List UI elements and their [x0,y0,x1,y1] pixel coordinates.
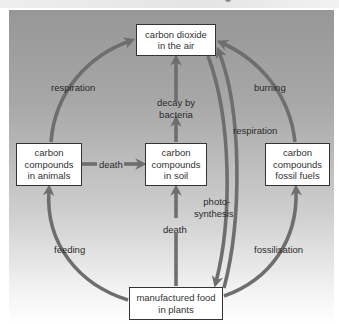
node-soil-line2: compounds [151,159,200,171]
label-photo-line1: photo- [194,196,234,208]
label-burning: burning [254,82,286,94]
label-decay-by-bacteria: decay by bacteria [152,97,200,120]
node-soil-line1: carbon [161,147,190,159]
node-carbon-in-soil: carbon compounds in soil [145,143,207,186]
node-co2-in-air: carbon dioxide in the air [136,24,216,56]
node-carbon-in-animals: carbon compounds in animals [16,143,82,186]
label-feeding: feeding [54,244,85,256]
label-respiration-plants: respiration [233,125,277,137]
arrow-photosynthesis [208,56,227,282]
node-fossil-line1: carbon [283,147,312,159]
node-carbon-fossil-fuels: carbon compounds fossil fuels [265,143,330,186]
label-photosynthesis: photo- synthesis [194,196,234,219]
label-decay-line2: bacteria [152,109,200,121]
node-food-in-plants: manufactured food in plants [129,287,223,320]
label-death-plants: death [163,224,187,236]
node-animals-line1: carbon [34,147,63,159]
label-respiration-animals: respiration [51,82,95,94]
node-co2-line1: carbon dioxide [145,29,207,41]
node-co2-line2: in the air [158,40,194,52]
node-fossil-line3: fossil fuels [275,170,319,182]
label-fossilisation: fossilisation [254,244,303,256]
node-animals-line3: in animals [28,170,71,182]
node-fossil-line2: compounds [273,159,322,171]
label-decay-line1: decay by [152,97,200,109]
node-soil-line3: in soil [164,170,188,182]
label-death-animals: death [99,159,123,171]
node-animals-line2: compounds [24,159,73,171]
label-photo-line2: synthesis [194,208,234,220]
node-plants-line2: in plants [158,304,193,316]
node-plants-line1: manufactured food [136,292,215,304]
